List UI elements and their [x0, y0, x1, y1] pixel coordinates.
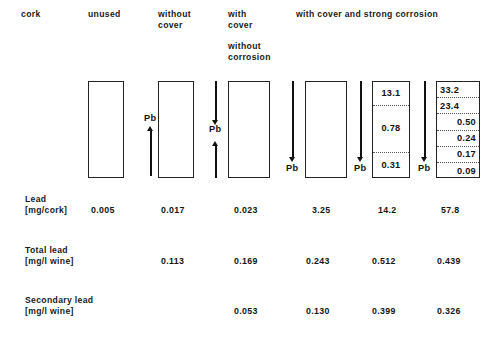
arrow-up-col2-head [147, 126, 153, 131]
cell-total-strong-b: 0.512 [372, 256, 396, 266]
cork-box-with-cover [228, 81, 270, 178]
arrow-up-col3-line [215, 146, 217, 178]
pb-label-col4: Pb [286, 163, 299, 173]
cork-box-strong-corrosion-a [305, 81, 347, 178]
cell-lead-strong-b: 14.2 [378, 205, 397, 215]
box-segment-value: 0.09 [457, 166, 476, 176]
box-segment: 13.1 [373, 82, 409, 106]
header-cork: cork [21, 9, 41, 20]
lead-cork-figure: cork unused without cover with cover wit… [0, 0, 503, 337]
header-with-cover: with cover [228, 9, 253, 30]
cell-secondary-wcover: 0.053 [234, 306, 258, 316]
cell-total-strong-a: 0.243 [306, 256, 330, 266]
arrow-down-col3-line [215, 81, 217, 121]
box-segment: 0.09 [437, 163, 479, 179]
box-segment: 33.2 [437, 82, 479, 98]
cell-lead-wcover: 0.023 [234, 205, 258, 215]
arrow-down-col5-head [357, 157, 363, 162]
box-segment-value: 0.24 [457, 133, 476, 143]
box-segment: 0.78 [373, 106, 409, 153]
header-without-cover: without cover [158, 9, 191, 30]
header-unused: unused [88, 9, 121, 20]
cell-secondary-strong-c: 0.326 [437, 306, 461, 316]
cell-lead-wocover: 0.017 [161, 205, 185, 215]
pb-label-col3: Pb [209, 124, 222, 134]
cell-total-strong-c: 0.439 [437, 256, 461, 266]
arrow-down-col6-head [421, 157, 427, 162]
row-label-total-lead: Total lead [mg/l wine] [25, 245, 74, 267]
pb-label-col6: Pb [418, 163, 431, 173]
box-segment-value: 0.50 [457, 117, 476, 127]
cork-box-without-cover [158, 81, 194, 178]
pb-label-col5: Pb [354, 163, 367, 173]
row-label-secondary-lead: Secondary lead [mg/l wine] [25, 295, 93, 317]
box-segment-value: 33.2 [440, 85, 459, 95]
header-strong-corrosion: with cover and strong corrosion [296, 9, 438, 20]
pb-label-col2: Pb [144, 113, 157, 123]
cell-total-wcover: 0.169 [234, 256, 258, 266]
cork-box-strong-corrosion-c: 33.2 23.4 0.50 0.24 0.17 0.09 [436, 81, 480, 178]
arrow-down-col4-line [292, 81, 294, 158]
box-segment: 0.24 [437, 131, 479, 147]
box-segment-value: 23.4 [440, 101, 459, 111]
box-segment: 0.17 [437, 147, 479, 163]
row-label-lead-per-cork: Lead [mg/cork] [25, 194, 67, 216]
cell-total-wocover: 0.113 [161, 256, 184, 266]
header-without-corrosion: without corrosion [228, 41, 271, 62]
arrow-down-col6-line [424, 81, 426, 158]
box-segment: 0.50 [437, 114, 479, 130]
arrow-up-col3-head [212, 141, 218, 146]
cork-box-unused [88, 81, 124, 178]
cell-secondary-strong-a: 0.130 [306, 306, 330, 316]
box-segment-value: 0.78 [373, 123, 409, 133]
arrow-down-col4-head [289, 157, 295, 162]
cell-lead-strong-c: 57.8 [441, 205, 460, 215]
arrow-down-col5-line [360, 81, 362, 158]
box-segment-value: 0.17 [457, 149, 476, 159]
box-segment: 0.31 [373, 153, 409, 179]
cell-secondary-strong-b: 0.399 [372, 306, 396, 316]
cell-lead-unused: 0.005 [91, 205, 115, 215]
box-segment-value: 13.1 [373, 88, 409, 98]
cell-lead-strong-a: 3.25 [312, 205, 331, 215]
box-segment: 23.4 [437, 98, 479, 114]
cork-box-strong-corrosion-b: 13.1 0.78 0.31 [372, 81, 410, 178]
box-segment-value: 0.31 [373, 160, 409, 170]
arrow-up-col2-line [150, 131, 152, 176]
